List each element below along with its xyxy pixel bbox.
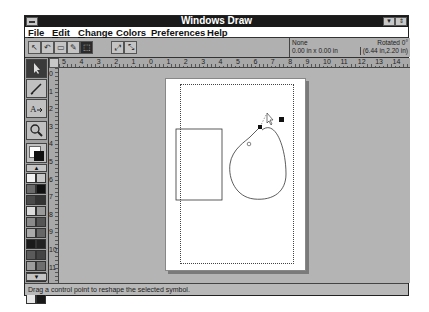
title-bar: Windows Draw ▼ ⇕ [25,16,408,27]
menu-colors[interactable]: Colors [116,27,146,38]
reshaped-ellipse-shape[interactable] [230,127,286,199]
undo-icon: ↶ [44,43,51,52]
minimize-button[interactable]: ▼ [383,17,395,26]
vertical-ruler: 01234567891011 [49,68,59,283]
redo-button[interactable]: ▭ [54,41,67,54]
ruler-label: 7 [270,58,276,66]
ruler-label: 10 [49,246,57,254]
ruler-label: 3 [200,58,206,66]
ruler-label: 3 [96,58,102,66]
palette-swatch[interactable] [36,239,46,249]
palette-swatch[interactable] [26,173,36,183]
control-point-handle[interactable] [279,117,284,122]
window-title: Windows Draw [25,15,408,27]
status-bar: Drag a control point to reshape the sele… [25,283,408,295]
pointer-mode-button[interactable]: ↖ [28,41,41,54]
rotation-value: Rotated 0° [377,39,408,47]
drawing-canvas[interactable] [59,68,410,283]
menu-edit[interactable]: Edit [52,27,70,38]
pointer-icon: ↖ [31,43,38,52]
reshape-button[interactable]: ⬚ [80,41,93,54]
ruler-corner [49,58,59,68]
palette-scroll-up[interactable]: ▲ [26,164,47,172]
node-handle[interactable] [258,125,262,129]
ruler-label: 8 [287,58,293,66]
ruler-label: 13 [374,58,384,66]
palette-swatch[interactable] [26,184,36,194]
palette-swatch[interactable] [36,294,46,304]
palette-scroll-down[interactable]: ▼ [26,273,47,281]
magnifier-icon [29,124,44,137]
ruler-label: 4 [218,58,224,66]
ruler-label: 2 [183,58,189,66]
toolbar: ↖ ↶ ▭ ✎ ⬚ ⤢ ⤡ None 0.00 in x 0.00 in Rot… [25,38,408,58]
palette-swatch[interactable] [36,195,46,205]
pencil-tool[interactable] [26,79,47,98]
palette-swatch[interactable] [36,261,46,271]
ruler-label: 5 [235,58,241,66]
maximize-button[interactable]: ⇕ [395,17,407,26]
palette-swatch[interactable] [36,184,46,194]
ruler-label: 5 [49,158,53,166]
menu-file[interactable]: File [28,27,44,38]
ruler-label: 1 [131,58,137,66]
frame-icon: ▭ [57,43,65,52]
ruler-label: 3 [49,123,53,131]
ruler-label: 8 [49,211,53,219]
curve-node[interactable] [247,142,251,146]
palette-swatch[interactable] [36,250,46,260]
menu-preferences[interactable]: Preferences [151,27,205,38]
palette-swatch[interactable] [26,195,36,205]
ruler-label: 4 [78,58,84,66]
rectangle-shape[interactable] [176,129,222,200]
ruler-label: 0 [49,70,53,78]
horizontal-ruler: 5432101234567891011121314 [59,58,410,68]
size-value: 0.00 in x 0.00 in [292,47,338,55]
svg-text:A: A [30,104,37,114]
ruler-label: 6 [49,176,53,184]
menu-bar: File Edit Change Colors Preferences Help [25,27,408,38]
select-tool[interactable] [26,59,47,78]
palette-swatch[interactable] [26,206,36,216]
ruler-label: 6 [252,58,258,66]
ruler-label: 10 [322,58,332,66]
zoom-tool[interactable] [26,121,47,140]
reshape-icon: ⬚ [83,43,91,52]
menu-change[interactable]: Change [78,27,113,38]
ruler-label: 14 [392,58,402,66]
ruler-label: 9 [305,58,311,66]
palette-swatch[interactable] [26,217,36,227]
palette-swatch[interactable] [26,261,36,271]
ruler-label: 5 [61,58,67,66]
current-color-selector[interactable] [26,143,47,163]
ruler-label: 7 [49,193,53,201]
ruler-label: 4 [49,140,53,148]
zoom-out-button[interactable]: ⤡ [124,41,137,54]
palette-swatch[interactable] [26,294,36,304]
palette-swatch[interactable] [36,173,46,183]
node-edit-button[interactable]: ✎ [67,41,80,54]
app-window: Windows Draw ▼ ⇕ File Edit Change Colors… [24,15,409,296]
palette-swatch[interactable] [26,228,36,238]
palette-swatch[interactable] [36,206,46,216]
undo-button[interactable]: ↶ [41,41,54,54]
ruler-label: 11 [49,264,56,272]
menu-help[interactable]: Help [207,27,228,38]
zoom-in-icon: ⤢ [115,43,121,52]
fill-color-swatch [34,151,44,161]
toolbox: A ▲ ▼ [25,58,49,283]
ruler-label: 12 [357,58,367,66]
ruler-label: 9 [49,228,53,236]
text-icon: A [29,102,44,115]
palette-swatch[interactable] [36,217,46,227]
palette-swatch[interactable] [26,239,36,249]
palette-swatch[interactable] [26,250,36,260]
arrow-pointer-icon [29,62,44,75]
zoom-in-button[interactable]: ⤢ [111,41,124,54]
page [165,78,306,271]
text-tool[interactable]: A [26,99,47,118]
palette-swatch[interactable] [36,228,46,238]
pencil-icon [29,82,44,95]
object-info-panel: None 0.00 in x 0.00 in Rotated 0° (6.44 … [289,38,410,57]
node-edit-icon: ✎ [70,43,77,52]
